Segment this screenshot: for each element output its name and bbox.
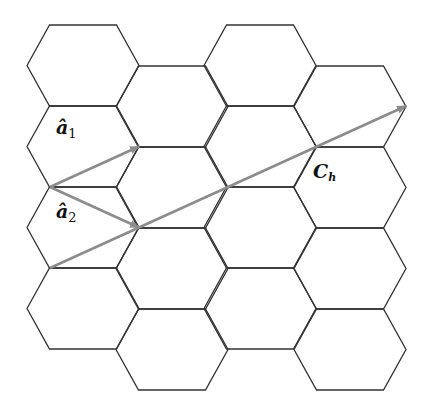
vector-a1-arrow	[50, 147, 139, 188]
ch-label: Ch	[313, 160, 336, 184]
hexagon-cell	[27, 25, 139, 106]
honeycomb-lattice-diagram: â1 â2 Ch	[0, 0, 429, 411]
a2-label: â2	[56, 200, 77, 225]
hexagon-cell	[294, 147, 406, 228]
hexagon-cell	[294, 66, 406, 147]
a1-label: â1	[56, 116, 77, 141]
hexagon-cell	[294, 309, 406, 390]
hexagon-grid	[27, 25, 406, 390]
hexagon-cell	[294, 228, 406, 309]
